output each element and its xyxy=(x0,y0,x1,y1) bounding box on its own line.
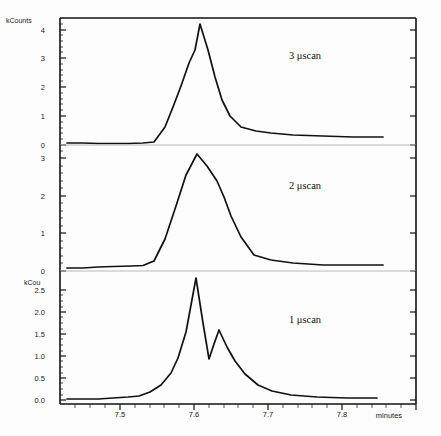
xtick-label-1: 7.6 xyxy=(189,410,199,419)
panel3-trace xyxy=(67,278,377,399)
panel3-ytick-2: 1.0 xyxy=(35,352,45,361)
x-axis-label: minutes xyxy=(376,411,403,420)
chromatogram-svg: kCounts 0 1 2 3 xyxy=(0,0,441,436)
panel3-ytick-4: 2.0 xyxy=(35,308,45,317)
panel1-ytick-2: 2 xyxy=(41,83,45,92)
panel2-ytick-2: 2 xyxy=(41,192,45,201)
panel3-ytick-1: 0.5 xyxy=(35,374,45,383)
panel1-ytick-3: 3 xyxy=(41,54,45,63)
panel2-y-ticks xyxy=(60,158,416,271)
panel2-ytick-3: 3 xyxy=(41,154,45,163)
xtick-label-0: 7.5 xyxy=(115,410,125,419)
y-axis-label-bottom: kCou xyxy=(24,279,40,286)
panel3-label: 1 μscan xyxy=(289,314,322,325)
panel2-ytick-0: 0 xyxy=(41,267,45,276)
chromatogram-figure: kCounts 0 1 2 3 xyxy=(0,0,441,436)
panel3-ytick-0: 0.0 xyxy=(35,396,45,405)
panel1-y-ticks xyxy=(60,30,416,145)
panel3-ytick-3: 1.5 xyxy=(35,330,45,339)
panel2-trace xyxy=(67,154,383,268)
xtick-label-2: 7.7 xyxy=(263,410,273,419)
panel1-ytick-4: 4 xyxy=(41,26,45,35)
panel2-ytick-1: 1 xyxy=(41,229,45,238)
panel3-y-ticks xyxy=(60,290,416,400)
y-axis-label-top: kCounts xyxy=(6,17,32,24)
panel1-ytick-1: 1 xyxy=(41,112,45,121)
panel2-label: 2 μscan xyxy=(289,180,322,191)
panel1-label: 3 μscan xyxy=(289,50,322,61)
panel3-ytick-5: 2.5 xyxy=(35,286,45,295)
xtick-label-3: 7.8 xyxy=(337,410,347,419)
panel1-trace xyxy=(67,24,383,144)
panel1-ytick-0: 0 xyxy=(41,141,45,150)
